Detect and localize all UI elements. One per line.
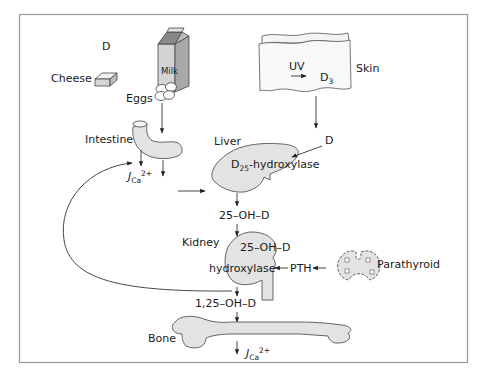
kidney-product-label: 1,25–OH–D [195, 297, 256, 310]
eggs-label: Eggs [126, 92, 153, 105]
skin-icon [259, 33, 351, 92]
bone-calcium-flux-label: JCa2+ [244, 346, 270, 362]
vitamin-d-pathway-diagram: D Cheese Milk Eggs UV D3 Skin D I [0, 0, 485, 383]
milk-carton-icon [158, 28, 189, 92]
liver-product-label: 25–OH–D [219, 209, 269, 222]
kidney-enzyme-line2: hydroxylase [209, 262, 276, 275]
uv-label: UV [289, 60, 305, 73]
intestine-icon [133, 121, 182, 159]
skin-label: Skin [356, 62, 379, 75]
parathyroid-icon [338, 251, 380, 280]
dietary-d-label: D [102, 40, 110, 53]
intestine-calcium-flux-label: JCa2+ [126, 169, 152, 185]
skin-output-d-label: D [325, 134, 333, 147]
cheese-label: Cheese [51, 72, 92, 85]
intestine-label: Intestine [85, 133, 133, 146]
kidney-enzyme-line1: 25–OH–D [240, 241, 290, 254]
pth-label: PTH [290, 262, 312, 275]
feedback-arrow [63, 163, 232, 291]
bone-icon [172, 316, 351, 348]
cheese-icon [95, 73, 117, 86]
milk-label: Milk [161, 66, 178, 76]
kidney-label: Kidney [182, 236, 220, 249]
parathyroid-label: Parathyroid [377, 258, 440, 271]
liver-label: Liver [214, 135, 241, 148]
bone-label: Bone [148, 332, 176, 345]
